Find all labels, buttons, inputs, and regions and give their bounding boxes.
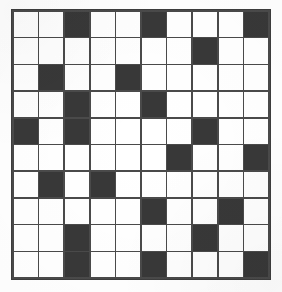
filled-square [219, 199, 243, 224]
empty-square [244, 119, 268, 144]
empty-square [193, 65, 217, 90]
empty-square [14, 38, 38, 63]
filled-square [193, 225, 217, 250]
empty-square [142, 65, 166, 90]
empty-square [14, 65, 38, 90]
empty-square [142, 119, 166, 144]
empty-square [219, 38, 243, 63]
filled-square [14, 119, 38, 144]
empty-square [91, 199, 115, 224]
empty-square [116, 225, 140, 250]
empty-square [91, 145, 115, 170]
empty-square [39, 12, 63, 37]
empty-square [244, 92, 268, 117]
empty-square [14, 252, 38, 277]
empty-square [91, 92, 115, 117]
grid-board [11, 9, 271, 280]
empty-square [91, 12, 115, 37]
empty-square [91, 119, 115, 144]
empty-square [65, 65, 89, 90]
empty-square [39, 225, 63, 250]
empty-square [65, 172, 89, 197]
empty-square [142, 172, 166, 197]
empty-square [167, 252, 191, 277]
filled-square [65, 119, 89, 144]
empty-square [116, 172, 140, 197]
empty-square [219, 12, 243, 37]
empty-square [116, 92, 140, 117]
empty-square [244, 65, 268, 90]
empty-square [142, 38, 166, 63]
grid-figure [0, 0, 282, 292]
empty-square [14, 199, 38, 224]
empty-square [116, 12, 140, 37]
empty-square [39, 119, 63, 144]
empty-square [167, 92, 191, 117]
empty-square [193, 252, 217, 277]
empty-square [14, 225, 38, 250]
empty-square [39, 145, 63, 170]
empty-square [193, 12, 217, 37]
empty-square [39, 38, 63, 63]
empty-square [14, 172, 38, 197]
empty-square [167, 199, 191, 224]
empty-square [14, 12, 38, 37]
filled-square [142, 92, 166, 117]
empty-square [116, 252, 140, 277]
filled-square [142, 12, 166, 37]
empty-square [219, 252, 243, 277]
empty-square [116, 38, 140, 63]
empty-square [116, 119, 140, 144]
empty-square [65, 199, 89, 224]
filled-square [65, 225, 89, 250]
empty-square [219, 225, 243, 250]
filled-square [193, 38, 217, 63]
filled-square [65, 252, 89, 277]
empty-square [167, 119, 191, 144]
empty-square [219, 119, 243, 144]
empty-square [91, 65, 115, 90]
filled-square [142, 199, 166, 224]
filled-square [65, 92, 89, 117]
empty-square [65, 38, 89, 63]
empty-square [244, 38, 268, 63]
empty-square [244, 172, 268, 197]
empty-square [167, 38, 191, 63]
filled-square [65, 12, 89, 37]
empty-square [14, 92, 38, 117]
filled-square [116, 65, 140, 90]
empty-square [39, 92, 63, 117]
empty-square [219, 145, 243, 170]
empty-square [116, 145, 140, 170]
empty-square [193, 172, 217, 197]
empty-square [219, 92, 243, 117]
empty-square [167, 12, 191, 37]
empty-square [167, 65, 191, 90]
filled-square [193, 119, 217, 144]
empty-square [142, 225, 166, 250]
empty-square [219, 65, 243, 90]
filled-square [244, 145, 268, 170]
empty-square [167, 172, 191, 197]
empty-square [244, 199, 268, 224]
empty-square [65, 145, 89, 170]
filled-square [39, 65, 63, 90]
filled-square [244, 12, 268, 37]
empty-square [142, 145, 166, 170]
empty-square [39, 199, 63, 224]
filled-square [244, 252, 268, 277]
empty-square [116, 199, 140, 224]
empty-square [193, 92, 217, 117]
filled-square [39, 172, 63, 197]
empty-square [91, 252, 115, 277]
empty-square [91, 38, 115, 63]
empty-square [91, 225, 115, 250]
empty-square [193, 145, 217, 170]
empty-square [39, 252, 63, 277]
empty-square [244, 225, 268, 250]
empty-square [167, 225, 191, 250]
empty-square [219, 172, 243, 197]
empty-square [193, 199, 217, 224]
filled-square [91, 172, 115, 197]
empty-square [14, 145, 38, 170]
